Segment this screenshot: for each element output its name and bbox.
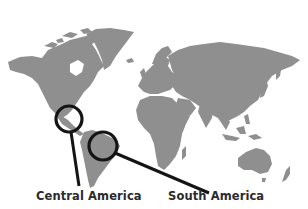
india bbox=[198, 104, 214, 128]
tasmania bbox=[262, 178, 266, 182]
madagascar bbox=[182, 146, 186, 160]
kamchatka bbox=[276, 64, 282, 80]
south-america-label: South America bbox=[168, 189, 264, 203]
central-america-leader bbox=[71, 132, 79, 186]
australia bbox=[238, 148, 272, 174]
iceland bbox=[126, 58, 134, 63]
world-map bbox=[0, 0, 308, 209]
new-zealand bbox=[282, 166, 290, 182]
central-america-label: Central America bbox=[36, 189, 142, 203]
